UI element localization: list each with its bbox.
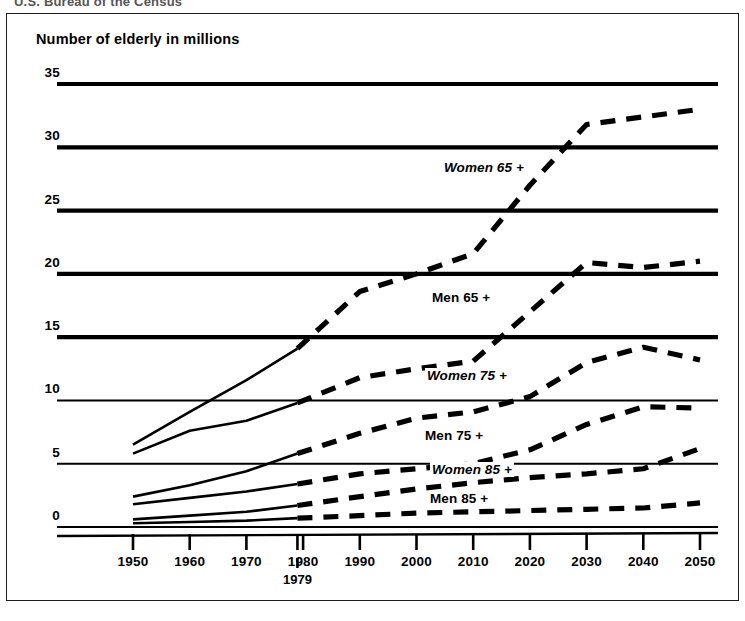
series-label-men-85: Men 85 +: [428, 491, 490, 506]
x-tick-label-2000: 2000: [394, 554, 440, 569]
x-tick-label-1950: 1950: [110, 554, 156, 569]
x-marker-label-1979: 1979: [274, 572, 320, 587]
series-label-women-85: Women 85 +: [430, 462, 514, 477]
line-historical-men-65: [133, 403, 297, 454]
series-label-women-75: Women 75 +: [425, 368, 509, 383]
chart-canvas: [0, 0, 745, 621]
x-tick-label-2010: 2010: [450, 554, 496, 569]
y-tick-label-30: 30: [30, 128, 60, 143]
x-tick-label-1990: 1990: [337, 554, 383, 569]
line-historical-men-75: [133, 484, 297, 504]
y-tick-label-25: 25: [30, 192, 60, 207]
line-projected-women-85: [297, 449, 700, 506]
y-tick-label-35: 35: [30, 65, 60, 80]
y-tick-label-10: 10: [30, 381, 60, 396]
y-tick-label-20: 20: [30, 255, 60, 270]
line-historical-women-65: [133, 349, 297, 445]
x-tick-label-1970: 1970: [223, 554, 269, 569]
line-historical-women-85: [133, 505, 297, 519]
line-historical-women-75: [133, 454, 297, 497]
series-label-men-65: Men 65 +: [430, 290, 492, 305]
series-label-men-75: Men 75 +: [423, 428, 485, 443]
y-tick-label-0: 0: [30, 508, 60, 523]
y-tick-label-5: 5: [30, 445, 60, 460]
x-tick-label-2050: 2050: [677, 554, 723, 569]
x-axis-line: [57, 533, 718, 536]
x-tick-label-1980: 1980: [280, 554, 326, 569]
series-label-women-65: Women 65 +: [442, 160, 526, 175]
series-group: [133, 109, 700, 523]
y-tick-label-15: 15: [30, 318, 60, 333]
gridlines-group: [57, 84, 718, 527]
x-axis-group: [57, 533, 718, 568]
page-root: U.S. Bureau of the Census Number of elde…: [0, 0, 745, 621]
x-tick-label-2020: 2020: [507, 554, 553, 569]
x-tick-label-1960: 1960: [167, 554, 213, 569]
x-tick-label-2030: 2030: [564, 554, 610, 569]
x-tick-label-2040: 2040: [620, 554, 666, 569]
line-projected-men-85: [297, 503, 700, 518]
